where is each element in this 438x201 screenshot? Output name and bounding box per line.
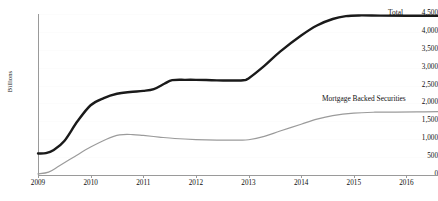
series-line-total — [38, 15, 438, 153]
series-label-mortgage-backed-securities: Mortgage Backed Securities — [322, 95, 406, 102]
series-line-mortgage-backed-securities — [38, 112, 438, 174]
line-chart: Billions 05001,0001,5002,0002,5003,0003,… — [0, 0, 438, 201]
series-label-total: Total — [388, 9, 403, 16]
